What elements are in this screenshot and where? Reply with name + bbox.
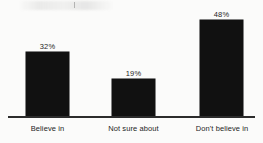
bar-value-label: 48% (200, 10, 243, 19)
bar-value-label: 32% (26, 42, 69, 51)
x-axis-label-not-sure-about: Not sure about (96, 124, 171, 133)
bar-rect-dont-believe-in (200, 20, 243, 117)
plot-area: 32% 19% 48% Believe in Not sure about Do… (0, 0, 263, 143)
baseline-axis (8, 116, 255, 118)
x-axis-label-believe-in: Believe in (14, 124, 81, 133)
bar-rect-believe-in (26, 52, 69, 117)
bar-chart-figure: 32% 19% 48% Believe in Not sure about Do… (0, 0, 263, 143)
bar-rect-not-sure-about (112, 79, 155, 117)
bar-value-label: 19% (112, 69, 155, 78)
x-axis-label-dont-believe-in: Don't believe in (182, 124, 262, 133)
